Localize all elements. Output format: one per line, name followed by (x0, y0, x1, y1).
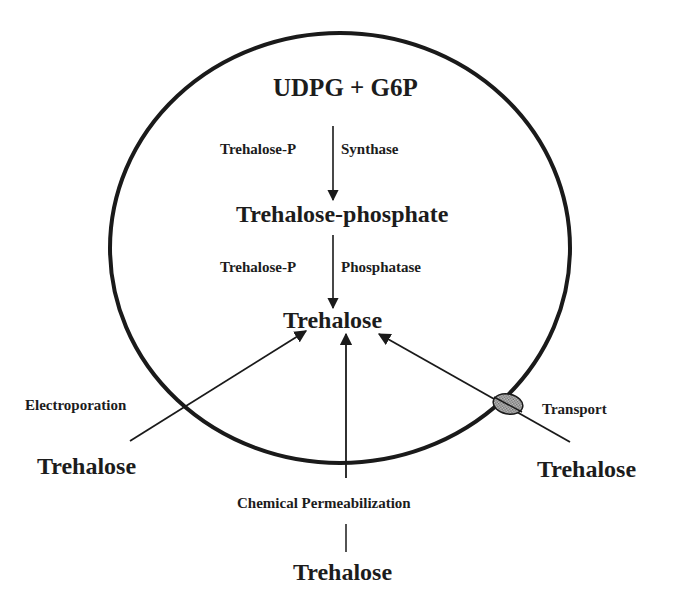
substrate-label: UDPG + G6P (273, 75, 418, 100)
enzyme1-left-label: Trehalose-P (220, 142, 296, 157)
enzyme2-left-label: Trehalose-P (220, 260, 296, 275)
enzyme1-right-label: Synthase (341, 142, 399, 157)
bottom-trehalose-source: Trehalose (293, 560, 392, 584)
product-label: Trehalose (283, 308, 382, 332)
electroporation-arrow (130, 331, 306, 441)
left-trehalose-source: Trehalose (37, 454, 136, 478)
enzyme2-right-label: Phosphatase (341, 260, 421, 275)
transport-label: Transport (542, 402, 607, 417)
electroporation-label: Electroporation (25, 398, 126, 413)
permeabilization-label: Chemical Permeabilization (237, 496, 411, 511)
intermediate-label: Trehalose-phosphate (236, 202, 448, 226)
right-trehalose-source: Trehalose (537, 457, 636, 481)
